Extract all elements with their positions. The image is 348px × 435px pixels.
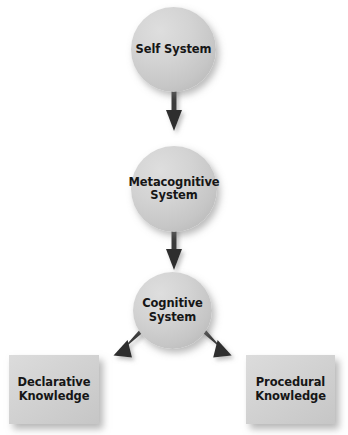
node-metacognitive-system[interactable]: Metacognitive System [131,146,217,232]
node-declarative-knowledge-label: Declarative Knowledge [15,376,94,403]
diagram-canvas: Self System Metacognitive System Cogniti… [0,0,348,435]
connector-metacognitive-to-cognitive [166,226,182,270]
node-self-system-label: Self System [133,43,215,56]
node-procedural-knowledge[interactable]: Procedural Knowledge [246,355,335,424]
node-cognitive-system[interactable]: Cognitive System [133,272,212,349]
node-declarative-knowledge[interactable]: Declarative Knowledge [9,355,99,424]
node-procedural-knowledge-label: Procedural Knowledge [252,376,329,403]
node-cognitive-system-label: Cognitive System [139,297,206,324]
node-metacognitive-system-label: Metacognitive System [126,176,223,203]
node-self-system[interactable]: Self System [131,7,216,92]
